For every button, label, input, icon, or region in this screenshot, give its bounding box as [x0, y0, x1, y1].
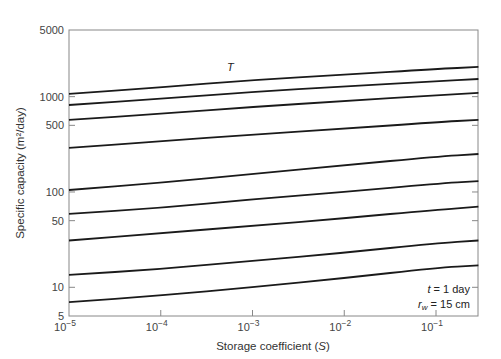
y-tick-label: 10: [52, 281, 64, 293]
x-tick-label: 10−1: [421, 318, 443, 333]
y-tick-label: 50: [52, 215, 64, 227]
curve-T-1000: [69, 93, 478, 120]
curves: [69, 67, 478, 302]
y-tick-label: 500: [46, 119, 64, 131]
curve-T-60: [69, 207, 478, 241]
curve-T-100: [69, 181, 478, 214]
specific-capacity-chart: 5105010050010005000 10−510−410−310−210−1…: [0, 0, 501, 359]
x-tick-label: 10−3: [238, 318, 260, 333]
curve-T-1500: [69, 79, 478, 105]
note-well-radius: rw = 15 cm: [418, 298, 470, 312]
curve-labels: T: [227, 61, 235, 73]
curve-T-2000: [69, 67, 478, 94]
x-tick-label: 10−2: [329, 318, 351, 333]
y-tick-label: 1000: [40, 91, 64, 103]
y-tick-label: 100: [46, 186, 64, 198]
curve-T-200: [69, 154, 478, 190]
x-tick-label: 10−4: [146, 318, 168, 333]
y-tick-label: 5000: [40, 24, 64, 36]
note-time: t = 1 day: [427, 283, 470, 295]
y-axis-title: Specific capacity (m²/day): [14, 107, 26, 239]
curve-T-500: [69, 120, 478, 148]
x-axis-title: Storage coefficient (S): [216, 340, 330, 352]
x-axis-ticks: 10−510−410−310−210−1: [54, 310, 443, 333]
x-tick-label: 10−5: [54, 318, 76, 333]
plot-frame: [69, 30, 478, 316]
curve-label-T-2000: T: [227, 61, 235, 73]
